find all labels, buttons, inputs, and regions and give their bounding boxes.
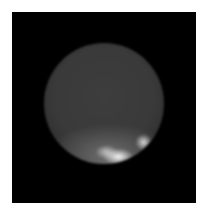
image-frame — [12, 12, 196, 203]
planet-disk — [44, 43, 164, 164]
